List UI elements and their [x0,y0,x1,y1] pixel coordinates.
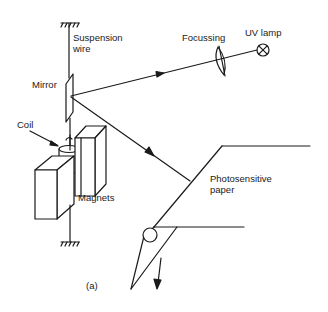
reflected-beam-arrowhead [145,147,154,156]
uv-lamp-label: UV lamp [245,27,281,38]
suspension-wire-label: Suspension wire [73,32,123,54]
uv-lamp-icon [257,44,269,56]
coil-label: Coil [17,119,33,130]
back-magnet [75,126,106,196]
focussing-label: Focussing [182,32,225,43]
focussing-lens-icon [216,46,225,76]
paper-roller [143,228,157,242]
magnets-label: Magnets [78,192,114,203]
galvanometer-recorder-diagram [0,0,328,312]
photosensitive-paper-label: Photosensitive paper [210,173,272,195]
photosensitive-paper [131,146,310,289]
incident-beam-arrowhead [156,72,164,78]
top-ground-anchor-icon [61,23,79,27]
bottom-ground-anchor-icon [61,242,79,246]
mirror-label: Mirror [32,79,57,90]
front-magnet [35,156,74,219]
figure-caption: (a) [86,280,98,291]
